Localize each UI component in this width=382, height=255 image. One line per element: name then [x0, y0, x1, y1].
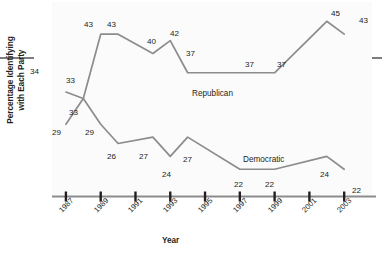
data-label-rep-1990: 43: [107, 20, 116, 29]
figure-container: Percentage Identifying with Each Party Y…: [0, 0, 382, 255]
data-label-dem-1999: 22: [265, 180, 274, 189]
data-label-rep-1988: 33: [66, 76, 75, 85]
data-label-rep-1992: 40: [147, 37, 156, 46]
x-axis-label: Year: [162, 236, 179, 245]
data-label-dem-1990: 26: [107, 152, 116, 161]
data-label-dem-1993: 24: [162, 170, 171, 179]
y-axis-label-line1: Percentage Identifying: [5, 10, 16, 150]
data-label-dem-1989: 29: [85, 128, 94, 137]
series-label-republican: Republican: [192, 89, 233, 98]
data-label-rep-1993: 42: [170, 29, 179, 38]
data-label-dem-1987: 29: [52, 128, 61, 137]
y-axis-label-line2: with Each Party: [16, 10, 27, 150]
y-axis-label: Percentage Identifying with Each Party: [5, 10, 37, 150]
data-label-rep-1989: 43: [84, 20, 93, 29]
data-label-dem-2002: 24: [320, 170, 329, 179]
series-label-democratic: Democratic: [243, 155, 284, 164]
data-label-rep-1987: 34: [30, 67, 39, 76]
data-label-dem-1997: 22: [234, 180, 243, 189]
data-label-dem-1988: 33: [69, 108, 78, 117]
data-label-dem-1994: 27: [183, 155, 192, 164]
series-line-republican: [66, 21, 344, 98]
data-label-rep-2003: 43: [359, 16, 368, 25]
data-label-rep-2002: 45: [331, 9, 340, 18]
data-label-rep-1994: 37: [186, 49, 195, 58]
data-label-dem-1992: 27: [139, 152, 148, 161]
data-label-dem-2003: 22: [352, 186, 361, 195]
data-label-rep-1999: 37: [277, 60, 286, 69]
data-label-rep-1997: 37: [245, 60, 254, 69]
